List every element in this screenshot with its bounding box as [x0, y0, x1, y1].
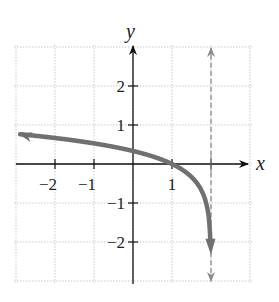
graph: −2−1121−1−2 x y	[0, 0, 279, 302]
y-tick-label: −2	[107, 233, 125, 252]
y-tick-label: 2	[117, 77, 126, 96]
y-tick-label: −1	[107, 194, 125, 213]
y-axis-label: y	[124, 20, 135, 43]
x-tick-label: −1	[78, 175, 96, 194]
y-tick-label: 1	[117, 116, 126, 135]
axes	[16, 46, 248, 284]
coordinate-plane: −2−1121−1−2 x y	[0, 0, 279, 302]
x-tick-label: 1	[168, 175, 177, 194]
x-axis-label: x	[255, 152, 265, 174]
x-tick-label: −2	[39, 175, 57, 194]
